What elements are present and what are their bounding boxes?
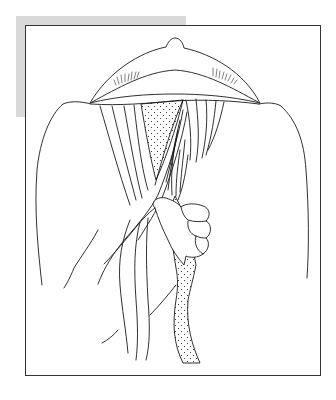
arm-lower — [64, 218, 176, 360]
illustration — [0, 0, 336, 400]
fibrous-strands-right — [186, 99, 224, 162]
fibrous-strands-left — [100, 105, 148, 205]
dome-flap — [90, 38, 260, 103]
instrument — [98, 110, 187, 284]
